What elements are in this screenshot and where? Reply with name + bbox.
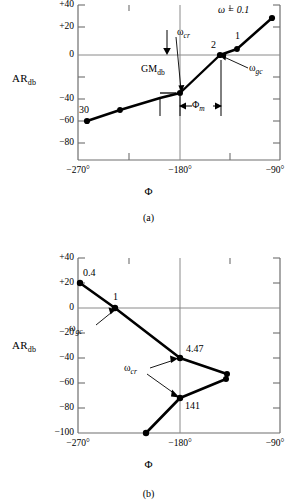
plot-b-ytick-m60: −60 — [44, 377, 74, 387]
plot-b-xtick-m90: −90° — [254, 438, 296, 448]
plot-b-point-label-1: 1 — [113, 291, 118, 302]
plot-b-omega-cr-leader-upper — [150, 360, 174, 368]
plot-b-ytick-20: +20 — [48, 277, 74, 287]
plot-b-ytick-0: 0 — [48, 302, 74, 312]
plot-b-y-axis-title-main: AR — [12, 339, 28, 351]
plot-b-x-axis-title: Φ — [0, 458, 297, 470]
plot-a-ytick-0: 0 — [48, 49, 74, 59]
plot-b-ytick-m100: −100 — [40, 427, 74, 437]
plot-a-ytick-20: +20 — [48, 21, 74, 31]
plot-b-point-label-4p47: 4.47 — [186, 343, 204, 354]
plot-b-y-axis-title: ARdb — [12, 339, 36, 354]
figure-a-caption: (a) — [0, 212, 297, 223]
figure-b-caption: (b) — [0, 488, 297, 499]
plot-b-xtick-m270: −270° — [54, 438, 102, 448]
plot-a-annotation-omega-gc: ωgc — [249, 62, 263, 76]
plot-b-ytick-40: +40 — [48, 252, 74, 262]
plot-b-point-label-0p4: 0.4 — [83, 267, 96, 278]
plot-b-xtick-m180: −180° — [156, 438, 204, 448]
plot-a-omega-cr-text: ω — [177, 26, 184, 37]
figure-a: ARdb +40 +20 0 −40 −60 −80 −270° −180° −… — [0, 0, 297, 252]
plot-b-omega-gc-text: ω — [69, 322, 76, 333]
plot-a-point-label-2: 2 — [211, 39, 216, 50]
plot-a-gain-margin-indicator — [160, 30, 176, 93]
plot-b-omega-cr-text: ω — [124, 362, 131, 373]
plot-b-point-label-141: 141 — [185, 400, 200, 411]
plot-a-omega-gc-sub: gc — [256, 67, 263, 76]
plot-a-ytick-m80: −80 — [48, 137, 74, 147]
plot-a-omega-gc-leader — [224, 57, 248, 68]
plot-b-omega-cr-arrowhead-lower — [171, 390, 180, 398]
plot-b-omega-gc-leader — [96, 312, 112, 325]
plot-a-phim-sub: m — [199, 104, 204, 113]
plot-a-x-axis-title: Φ — [0, 185, 297, 197]
plot-b-omega-cr-sub: cr — [131, 367, 137, 376]
plot-a-gm-text: GM — [141, 63, 157, 74]
plot-a-xtick-m180: −180° — [156, 165, 204, 175]
plot-a-omega-cr-sub: cr — [184, 31, 190, 40]
plot-a-annotation-phase-margin: Φm — [192, 99, 205, 113]
plot-a-ytick-m40: −40 — [48, 93, 74, 103]
plot-b-annotation-omega-cr: ωcr — [124, 362, 137, 376]
plot-a-gm-sub: db — [157, 68, 165, 77]
plot-a-ytick-m60: −60 — [48, 115, 74, 125]
plot-a-point-label-omega-0p1: ω = 0.1 — [218, 4, 249, 15]
plot-a-annotation-omega-cr: ωcr — [177, 26, 190, 40]
plot-b-yticks — [78, 258, 280, 408]
plot-b-ytick-m40: −40 — [44, 352, 74, 362]
plot-a-y-axis-title-sub: db — [28, 78, 36, 87]
plot-b-annotation-omega-gc: ωgc — [69, 322, 83, 336]
plot-a-point-label-1: 1 — [235, 30, 240, 41]
plot-b-omega-gc-sub: gc — [76, 327, 83, 336]
plot-a-xtick-m90: −90° — [254, 165, 296, 175]
plot-a-annotation-gain-margin: GMdb — [141, 63, 165, 77]
plot-a-y-axis-title: ARdb — [12, 72, 36, 87]
plot-b-y-axis-title-sub: db — [28, 345, 36, 354]
plot-a-ytick-40: +40 — [48, 0, 74, 9]
plot-a-point-label-30: 30 — [79, 104, 89, 115]
plot-b-curve — [80, 283, 227, 433]
plot-b-omega-cr-leader-lower — [147, 374, 175, 394]
plot-b-ytick-m80: −80 — [44, 402, 74, 412]
plot-a-omega-gc-text: ω — [249, 62, 256, 73]
plot-b-frame — [78, 258, 280, 433]
plot-a-y-axis-title-main: AR — [12, 72, 28, 84]
plot-a-xtick-m270: −270° — [54, 165, 102, 175]
figure-b: ARdb +40 +20 0 −20 −40 −60 −80 −100 −270… — [0, 240, 297, 504]
plot-b-data-points — [77, 280, 230, 436]
